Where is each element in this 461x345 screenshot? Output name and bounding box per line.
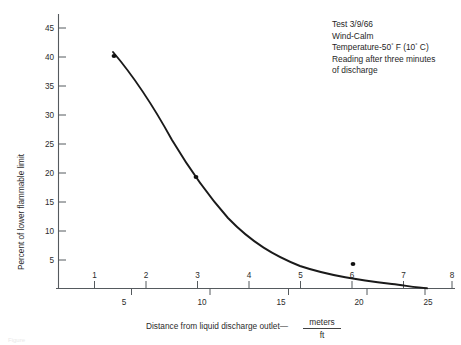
- x-axis-title-group: Distance from liquid discharge outlet— m…: [146, 317, 341, 340]
- x-tick-label-m-2: 2: [144, 271, 149, 280]
- x-tick-label-ft-15: 15: [276, 298, 286, 307]
- data-point-markers: [112, 54, 356, 266]
- y-tick-label-15: 15: [45, 198, 55, 207]
- annotation-temp-c: C): [418, 42, 429, 52]
- y-tick-label-5: 5: [49, 256, 54, 265]
- x-axis-title-numerator: meters: [309, 317, 334, 327]
- x-axis-title-main: Distance from liquid discharge outlet—: [146, 321, 289, 331]
- x-tick-label-m-7: 7: [401, 271, 406, 280]
- y-tick-label-10: 10: [45, 227, 55, 236]
- annotation-line-discharge: of discharge: [332, 65, 378, 75]
- y-tick-label-25: 25: [45, 140, 55, 149]
- annotation-block: Test 3/9/66 Wind-Calm Temperature-50° F …: [332, 19, 435, 75]
- x-tick-label-m-1: 1: [92, 271, 97, 280]
- chart-figure: 45 40 35 30 25 20 15 10 5 Percent of low…: [0, 0, 461, 345]
- x-tick-labels-meters: 1 2 3 4 5 6 7 8: [92, 271, 455, 280]
- annotation-line-temperature: Temperature-50° F (10° C): [332, 42, 429, 52]
- y-tick-label-45: 45: [45, 24, 55, 33]
- annotation-temp-a: Temperature-50: [332, 42, 391, 52]
- y-tick-label-40: 40: [45, 53, 55, 62]
- data-curve: [113, 52, 427, 288]
- x-tick-label-m-8: 8: [450, 271, 455, 280]
- y-tick-labels: 45 40 35 30 25 20 15 10 5: [45, 24, 55, 265]
- x-tick-label-ft-10: 10: [197, 298, 207, 307]
- figure-caption: Figure: [8, 337, 26, 343]
- annotation-temp-b: F (10: [393, 42, 415, 52]
- x-tick-label-ft-25: 25: [423, 298, 433, 307]
- x-tick-label-ft-20: 20: [354, 298, 364, 307]
- y-axis-title: Percent of lower flammable limit: [17, 153, 26, 270]
- annotation-line-wind: Wind-Calm: [332, 31, 373, 41]
- y-tick-group: [59, 28, 67, 260]
- x-tick-group-ft: [132, 289, 426, 296]
- data-point-marker-1: [112, 54, 117, 58]
- x-tick-label-ft-5: 5: [122, 298, 127, 307]
- x-tick-labels-ft: 5 10 15 20 25: [122, 298, 433, 307]
- x-tick-label-m-4: 4: [247, 271, 252, 280]
- y-tick-label-35: 35: [45, 82, 55, 91]
- x-tick-label-m-3: 3: [195, 271, 200, 280]
- data-point-marker-2: [194, 175, 199, 179]
- y-tick-label-20: 20: [45, 169, 55, 178]
- data-point-marker-3: [351, 262, 356, 266]
- x-tick-label-m-5: 5: [298, 271, 303, 280]
- y-tick-label-30: 30: [45, 111, 55, 120]
- flammable-limit-line-chart: 45 40 35 30 25 20 15 10 5 Percent of low…: [0, 0, 461, 345]
- x-axis-title-denominator: ft: [320, 330, 325, 340]
- annotation-line-test-date: Test 3/9/66: [332, 19, 373, 29]
- annotation-line-reading: Reading after three minutes: [332, 54, 435, 64]
